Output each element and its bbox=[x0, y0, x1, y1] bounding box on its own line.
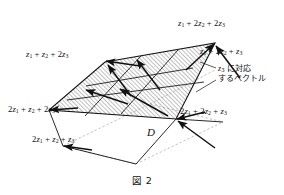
vertex-label-right-upper: z1 + 2z2 + z3 bbox=[200, 47, 242, 56]
annotation-z3-vector: z3 に対応 するベクトル bbox=[218, 64, 266, 85]
figure-caption: 図 2 bbox=[0, 173, 284, 187]
figure-diagram-canvas bbox=[0, 0, 284, 195]
vertex-label-bottom-left: 2z1 + z2 + z3 bbox=[32, 135, 74, 144]
annotation-line-1: z3 に対応 bbox=[218, 64, 251, 73]
vertex-label-left-lower: 2z1 + z2 + 2z3 bbox=[8, 105, 55, 114]
figure-2-parallelepiped: z1 + 2z2 + 2z3 z1 + 2z2 + z3 z1 + z2 + 2… bbox=[0, 0, 284, 195]
region-label-d: D bbox=[147, 126, 155, 138]
vertex-label-top: z1 + 2z2 + 2z3 bbox=[178, 19, 225, 28]
vertex-label-right-lower: 2z1 + 2z2 + z3 bbox=[180, 107, 227, 116]
vertex-label-left-upper: z1 + z2 + 2z3 bbox=[26, 50, 68, 59]
annotation-line-2: するベクトル bbox=[218, 74, 266, 83]
